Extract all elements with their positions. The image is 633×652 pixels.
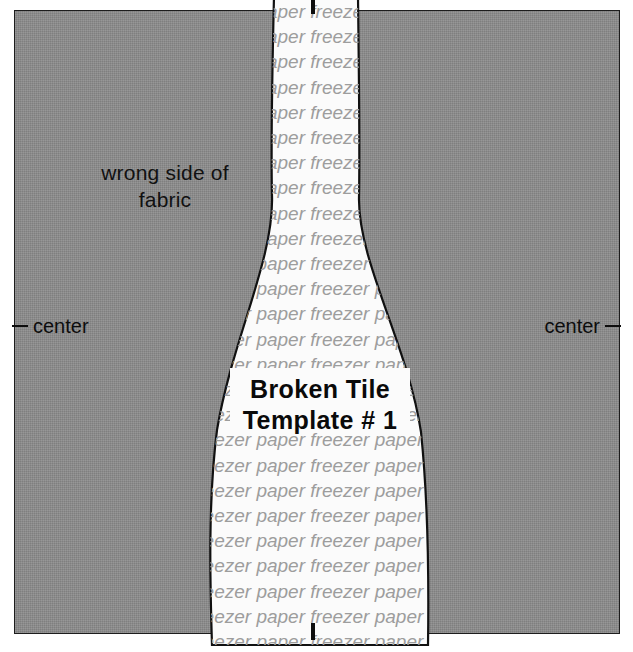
- watermark-row: freezer paper freezer paper freezer pape…: [192, 177, 542, 198]
- center-tick-right-icon: [605, 325, 621, 327]
- watermark-row: freezer paper freezer paper freezer pape…: [192, 631, 542, 652]
- watermark-row: freezer paper freezer paper freezer pape…: [192, 329, 542, 350]
- center-label-right: center: [544, 315, 600, 338]
- freezer-paper-template: freezer paper freezer paper freezer pape…: [0, 0, 633, 652]
- template-diagram: wrong side of fabric freezer paper freez…: [0, 0, 633, 652]
- watermark-row: freezer paper freezer paper freezer pape…: [192, 102, 542, 123]
- watermark-row: freezer paper freezer paper freezer pape…: [192, 581, 542, 602]
- center-mark-left: center: [12, 313, 89, 339]
- center-label-left: center: [33, 315, 89, 338]
- watermark-row: freezer paper freezer paper freezer pape…: [192, 51, 542, 72]
- watermark-row: freezer paper freezer paper freezer pape…: [192, 152, 542, 173]
- watermark-row: freezer paper freezer paper freezer pape…: [192, 127, 542, 148]
- center-mark-right: center: [544, 313, 621, 339]
- watermark-row: freezer paper freezer paper freezer pape…: [192, 606, 542, 627]
- watermark-row: freezer paper freezer paper freezer pape…: [192, 228, 542, 249]
- watermark-row: freezer paper freezer paper freezer pape…: [192, 253, 542, 274]
- watermark-row: freezer paper freezer paper freezer pape…: [192, 77, 542, 98]
- watermark-row: freezer paper freezer paper freezer pape…: [192, 505, 542, 526]
- template-title-line2: Template # 1: [243, 406, 397, 434]
- watermark-row: freezer paper freezer paper freezer pape…: [192, 455, 542, 476]
- template-title-line1: Broken Tile: [250, 375, 390, 403]
- watermark-row: freezer paper freezer paper freezer pape…: [192, 203, 542, 224]
- watermark-row: freezer paper freezer paper freezer pape…: [192, 480, 542, 501]
- center-tick-top-icon: [311, 0, 315, 14]
- watermark-row: freezer paper freezer paper freezer pape…: [192, 1, 542, 22]
- watermark-row: freezer paper freezer paper freezer pape…: [192, 555, 542, 576]
- template-shape-svg: freezer paper freezer paper freezer pape…: [0, 0, 633, 652]
- watermark-row: freezer paper freezer paper freezer pape…: [192, 278, 542, 299]
- watermark-row: freezer paper freezer paper freezer pape…: [192, 530, 542, 551]
- center-tick-left-icon: [12, 325, 28, 327]
- watermark-row: freezer paper freezer paper freezer pape…: [192, 26, 542, 47]
- center-tick-bottom-icon: [311, 623, 315, 640]
